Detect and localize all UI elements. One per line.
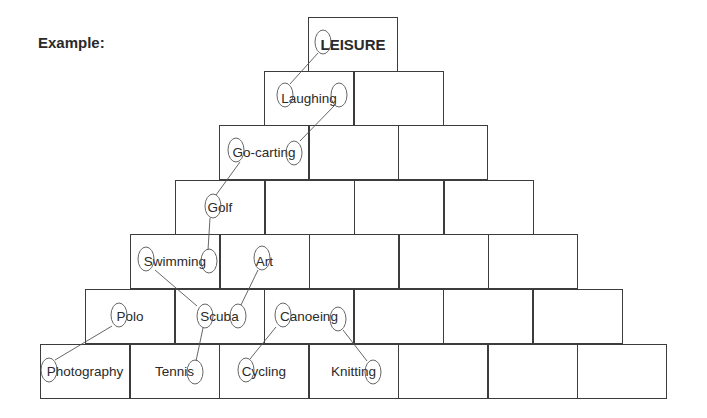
pyramid-cell-tennis: Tennis [130,344,220,399]
pyramid-cell-knitting: Knitting [309,344,399,399]
pyramid-cell-empty[interactable] [354,180,444,235]
pyramid-cell-empty[interactable] [488,344,578,399]
pyramid-cell-polo: Polo [85,289,175,344]
pyramid-cell-cycling: Cycling [219,344,309,399]
pyramid-cell-empty[interactable] [577,344,667,399]
pyramid-cell-empty[interactable] [399,234,489,289]
pyramid-cell-art: Art [220,234,310,289]
pyramid-cell-leisure: LEISURE [308,17,398,72]
pyramid-cell-empty[interactable] [265,180,355,235]
pyramid-cell-go-carting: Go-carting [219,125,309,180]
pyramid-cell-empty[interactable] [398,125,488,180]
pyramid-cell-empty[interactable] [533,289,623,344]
pyramid-cell-empty[interactable] [398,344,488,399]
pyramid-cell-empty[interactable] [309,125,399,180]
pyramid-cell-empty[interactable] [444,180,534,235]
pyramid-cell-empty[interactable] [354,289,444,344]
pyramid-cell-empty[interactable] [488,234,578,289]
pyramid-cell-swimming: Swimming [130,234,220,289]
pyramid-cell-empty[interactable] [354,71,444,126]
pyramid-cell-golf: Golf [175,180,265,235]
pyramid-cell-empty[interactable] [443,289,533,344]
pyramid-cell-canoeing: Canoeing [264,289,354,344]
pyramid-cell-laughing: Laughing [264,71,354,126]
example-label: Example: [38,34,105,51]
pyramid-cell-scuba: Scuba [175,289,265,344]
pyramid-cell-empty[interactable] [309,234,399,289]
pyramid-cell-photography: Photography [40,344,130,399]
